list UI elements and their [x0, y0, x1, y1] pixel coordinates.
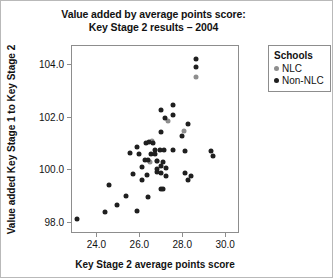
x-axis-tick — [225, 232, 226, 237]
data-point-nonnlc — [183, 170, 188, 175]
x-axis-tick-label: 28.0 — [173, 239, 192, 250]
legend-swatch-non-nlc-icon — [274, 78, 279, 83]
legend-item-nlc: NLC — [274, 63, 324, 74]
data-point-nonnlc — [154, 159, 159, 164]
y-axis-tick — [67, 64, 72, 65]
x-axis-tick — [182, 232, 183, 237]
chart-figure: Value added by average points score: Key… — [0, 0, 333, 278]
data-point-nonnlc — [194, 65, 199, 70]
data-point-nonnlc — [160, 186, 165, 191]
y-axis-title-text: Value added Key Stage 1 to Key Stage 2 — [7, 44, 18, 234]
data-point-nonnlc — [152, 152, 157, 157]
y-axis-tick-label: 100.0 — [39, 164, 64, 175]
data-point-nonnlc — [164, 165, 169, 170]
chart-legend: Schools NLC Non-NLC — [268, 45, 331, 92]
x-axis-tick — [96, 232, 97, 237]
data-point-nonnlc — [193, 56, 198, 61]
data-point-nonnlc — [146, 158, 151, 163]
y-axis-title: Value added Key Stage 1 to Key Stage 2 — [5, 45, 19, 233]
data-point-nonnlc — [162, 115, 167, 120]
data-point-nonnlc — [150, 140, 155, 145]
data-point-nonnlc — [144, 173, 149, 178]
data-point-nonnlc — [139, 178, 144, 183]
x-axis-tick-label: 26.0 — [130, 239, 149, 250]
y-axis-tick-label: 98.0 — [45, 216, 64, 227]
data-point-nonnlc — [183, 148, 188, 153]
legend-label-nlc: NLC — [282, 63, 302, 74]
legend-title: Schools — [274, 50, 324, 61]
legend-item-non-nlc: Non-NLC — [274, 75, 324, 86]
data-point-nlc — [194, 74, 199, 79]
data-point-nonnlc — [124, 194, 129, 199]
data-point-nonnlc — [180, 133, 185, 138]
data-point-nonnlc — [135, 144, 140, 149]
data-point-nonnlc — [134, 208, 139, 213]
y-axis-tick-label: 104.0 — [39, 59, 64, 70]
data-point-nonnlc — [186, 122, 191, 127]
x-axis-title: Key Stage 2 average points score — [71, 259, 239, 270]
y-axis-tick — [67, 222, 72, 223]
data-point-nonnlc — [146, 195, 151, 200]
chart-title: Value added by average points score: Key… — [46, 8, 261, 34]
data-point-nlc — [166, 119, 171, 124]
data-point-nonnlc — [128, 150, 133, 155]
data-point-nonnlc — [75, 216, 80, 221]
data-point-nonnlc — [163, 173, 168, 178]
data-point-nonnlc — [170, 113, 175, 118]
data-point-nonnlc — [115, 203, 120, 208]
data-point-nonnlc — [185, 177, 190, 182]
legend-label-non-nlc: Non-NLC — [282, 75, 324, 86]
data-point-nonnlc — [140, 164, 145, 169]
y-axis-tick — [67, 117, 72, 118]
data-point-nonnlc — [107, 182, 112, 187]
y-axis-tick — [67, 169, 72, 170]
data-point-nonnlc — [208, 148, 213, 153]
data-point-nonnlc — [159, 107, 164, 112]
data-point-nonnlc — [211, 154, 216, 159]
plot-area: 98.0100.0102.0104.024.026.028.030.0 — [71, 45, 239, 233]
data-point-nonnlc — [171, 102, 176, 107]
legend-swatch-nlc-icon — [274, 66, 279, 71]
data-point-nonnlc — [162, 148, 167, 153]
data-point-nonnlc — [103, 210, 108, 215]
x-axis-tick — [139, 232, 140, 237]
data-point-nonnlc — [158, 129, 163, 134]
y-axis-tick-label: 102.0 — [39, 111, 64, 122]
data-point-nonnlc — [136, 151, 141, 156]
data-point-nonnlc — [130, 171, 135, 176]
x-axis-tick-label: 24.0 — [87, 239, 106, 250]
x-axis-tick-label: 30.0 — [215, 239, 234, 250]
data-point-nonnlc — [170, 148, 175, 153]
